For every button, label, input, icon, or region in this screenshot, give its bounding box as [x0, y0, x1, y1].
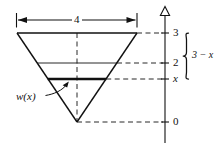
dimension-label: 4	[72, 14, 82, 25]
axis-label-0: 0	[173, 116, 179, 127]
dimension-arrow-left-icon	[18, 17, 27, 23]
dimension-arrow-right-icon	[127, 17, 136, 23]
figure-container: 4 3 2 x 0 3 − x w(x)	[0, 0, 219, 145]
axis-label-3: 3	[173, 27, 179, 38]
depth-brace	[183, 33, 188, 79]
triangle-right-edge	[77, 33, 137, 122]
axis-label-2: 2	[173, 57, 179, 68]
width-function-label: w(x)	[16, 91, 36, 102]
axis-label-x: x	[173, 73, 178, 84]
leader-dashes	[77, 33, 163, 122]
leader-arrowhead-icon	[63, 82, 69, 88]
depth-brace-label: 3 − x	[192, 50, 213, 60]
diagram-canvas	[0, 0, 219, 145]
vertical-axis	[160, 7, 169, 144]
triangle-left-edge	[17, 33, 77, 122]
axis-arrowhead-icon	[160, 7, 169, 16]
